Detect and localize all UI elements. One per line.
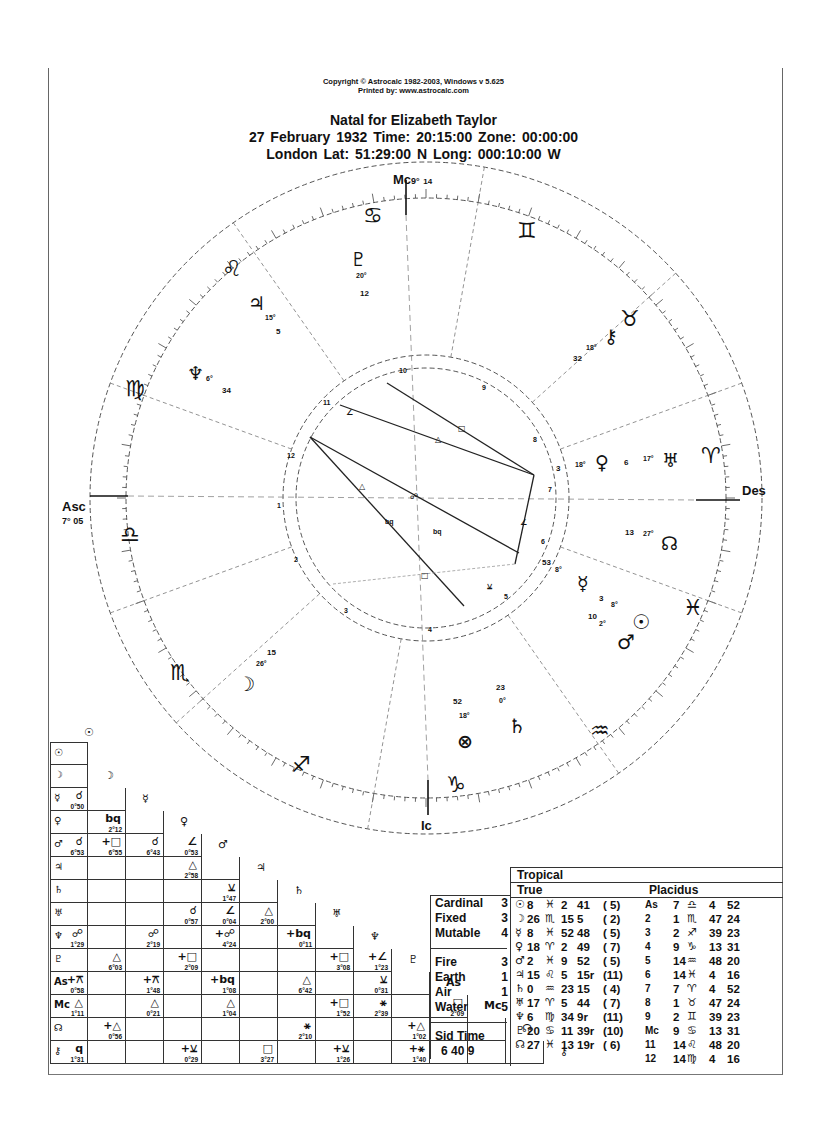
grid-row-header: ♇ [54,953,63,964]
house-system: Placidus [649,883,698,897]
aspect-symbol: +⚺ [333,1042,349,1055]
cusp-label: 9 [645,1010,651,1024]
aspect-cell: bq2°12 [88,811,126,834]
cusp-m: 39 [709,1010,722,1024]
planet-moon-icon: ☽ [237,672,255,696]
aspect-symbol: ☌ [190,904,197,917]
aspect-cell: △6°03 [88,949,126,972]
house-cusp-row: 92♊3923 [645,1010,775,1024]
aspect-symbol: +△ [103,1019,121,1032]
aspect-orb: 0°57 [185,918,198,925]
aspect-cell [88,880,126,903]
cusp-sign: ♋ [687,1024,697,1038]
aspect-cell: ∠0°53 [164,834,202,857]
aspect-symbol: +bq [210,973,235,986]
aspect-cell: ☌0°57 [164,903,202,926]
positions-table: Tropical TruePlacidus ☉8♓241( 5)☽26♏155(… [510,867,783,1066]
aspect-cell [126,1018,164,1041]
position-m: 9 [561,954,567,968]
aspect-symbol: ☍ [148,927,159,940]
aspect-orb: 1°26 [337,1056,350,1063]
aspect-cell [240,880,278,903]
mars-minute: 10 [588,612,597,621]
cusp-m: 47 [709,912,722,926]
sid-time-value: 6 40 9 [431,1044,511,1059]
aspect-cell [316,972,354,995]
node-minute: 13 [625,528,634,537]
aspect-cell: Mc△1°11 [50,995,88,1018]
house-number: 8 [533,436,537,443]
divider [431,948,507,949]
position-deg: 0 [527,982,533,996]
planet-mars-icon: ♂ [617,630,635,654]
position-house: (11) [603,968,623,982]
sign-scorpio-icon: ♏ [170,660,190,685]
aspect-symbol: ∠ [187,835,197,848]
aspect-orb: 2°00 [261,918,274,925]
aspect-cell: △0°21 [126,995,164,1018]
cusp-deg: 7 [673,982,679,996]
cusp-m: 4 [709,1052,715,1066]
sign-cancer-icon: ♋ [363,203,383,228]
mode-row-cardinal: Cardinal3 [431,896,511,911]
cusp-m: 39 [709,926,722,940]
grid-column-header: ☽ [104,769,114,782]
position-house: ( 5) [603,954,620,968]
aspect-orb: 0°56 [109,1033,122,1040]
grid-column-header: ♄ [294,884,304,897]
aspect-cell: ⚷q1°31 [50,1041,88,1064]
cusp-sign: ♉ [687,996,697,1010]
planet-uranus-icon: ♅ [662,449,679,471]
position-deg: 20 [527,1024,540,1038]
ic-label: Ic [421,818,432,833]
aspect-cell [202,1018,240,1041]
aspect-cell [278,949,316,972]
jupiter-degree: 15° [265,314,276,321]
aspect-trine-icon: △ [435,435,441,444]
aspect-symbol: △ [151,996,159,1009]
aspect-orb: 0°50 [71,803,84,810]
position-sign: ♈ [545,940,555,954]
aspect-symbol: +⚺ [181,1042,197,1055]
aspect-orb: 3°08 [337,964,350,971]
aspect-cell [354,1041,392,1064]
uranus-degree: 17° [643,455,654,462]
position-s: 49 [577,940,590,954]
aspect-orb: 6°42 [299,987,312,994]
aspect-orb: 2°10 [299,1033,312,1040]
position-glyph: ☉ [515,898,525,912]
house-number: 11 [323,399,330,406]
position-deg: 2 [527,954,533,968]
aspect-cell [126,949,164,972]
aspect-symbol: ☌ [152,835,159,848]
aspect-orb: 2°12 [109,826,122,833]
aspect-cell [240,972,278,995]
moon-degree: 26° [256,660,267,667]
aspect-cell [240,949,278,972]
chiron-degree: 18° [586,344,597,351]
house-cusp-row: 32♐3923 [645,926,775,940]
aspect-symbol: +⚹ [409,1042,425,1055]
position-house: ( 4) [603,982,620,996]
position-sign: ♈ [545,996,555,1010]
cusp-label: 4 [645,940,651,954]
aspect-cell [202,1041,240,1064]
aspect-orb: 1°40 [413,1056,426,1063]
aspect-orb: 1°29 [71,941,84,948]
cusp-label: 3 [645,926,651,940]
cusp-deg: 14 [673,1038,686,1052]
cusp-m: 48 [709,954,722,968]
element-row-water: Water5 [431,1000,511,1015]
aspect-symbol: ⚹ [380,996,387,1009]
aspect-biquintile-label: bq [433,528,442,535]
position-house: ( 5) [603,926,620,940]
zodiac-type: Tropical [510,867,783,883]
position-m: 5 [561,968,567,982]
cusp-label: 6 [645,968,651,982]
position-m: 15 [561,912,574,926]
aspect-orb: 0°11 [299,941,312,948]
grid-row-header: ♆ [54,930,63,941]
aspect-cell [126,903,164,926]
aspect-cell [316,926,354,949]
mode-row-fixed: Fixed3 [431,911,511,926]
